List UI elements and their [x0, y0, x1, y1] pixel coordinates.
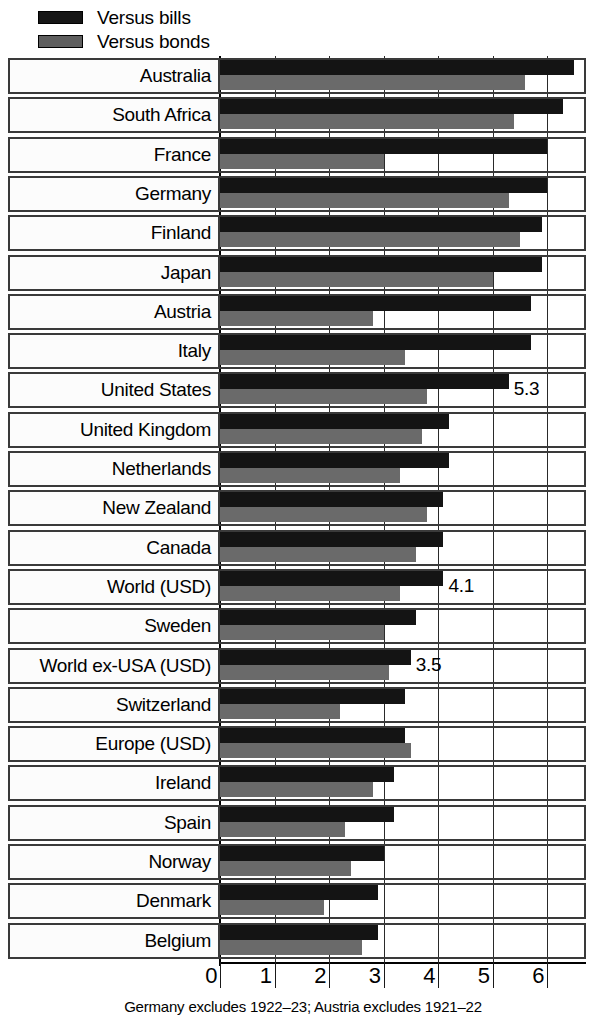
bar-versus-bills: [220, 767, 394, 782]
bar-value-label: 5.3: [514, 379, 540, 398]
axis-tick-0: [220, 962, 221, 988]
bar-versus-bonds: [220, 782, 373, 797]
legend-label-bills: Versus bills: [97, 8, 191, 27]
row-label: Sweden: [144, 616, 211, 636]
legend-item-bonds: Versus bonds: [38, 30, 210, 52]
row-label: Japan: [161, 263, 211, 283]
x-axis: 0123456: [0, 962, 606, 996]
bar-versus-bonds: [220, 704, 340, 719]
row-label: Germany: [135, 184, 211, 204]
bar-versus-bonds: [220, 586, 400, 601]
bar-versus-bills: [220, 139, 547, 154]
axis-tick-4: [438, 962, 439, 988]
row-label: Italy: [178, 341, 211, 361]
row-label: Ireland: [155, 773, 211, 793]
chart-legend: Versus bills Versus bonds: [38, 4, 338, 52]
bar-versus-bills: [220, 885, 378, 900]
row-label-box: United States: [8, 372, 220, 408]
row-label-box: Belgium: [8, 923, 220, 959]
axis-tick-5: [493, 962, 494, 988]
row-label-box: Denmark: [8, 883, 220, 919]
legend-item-bills: Versus bills: [38, 6, 191, 28]
row-label-box: France: [8, 137, 220, 173]
bar-versus-bills: [220, 217, 542, 232]
bar-versus-bills: [220, 335, 531, 350]
row-label: Denmark: [136, 891, 211, 911]
row-label: Belgium: [144, 931, 211, 951]
bar-versus-bonds: [220, 272, 493, 287]
chart-footnote: Germany excludes 1922–23; Austria exclud…: [0, 998, 606, 1016]
bar-versus-bonds: [220, 232, 520, 247]
axis-tick-label-6: 6: [532, 964, 544, 988]
bar-versus-bills: [220, 532, 443, 547]
bar-versus-bills: [220, 610, 416, 625]
bar-versus-bonds: [220, 900, 324, 915]
bar-versus-bonds: [220, 114, 514, 129]
bar-versus-bills: [220, 60, 574, 75]
row-label: South Africa: [112, 105, 211, 125]
bar-versus-bonds: [220, 193, 509, 208]
row-label-box: Italy: [8, 333, 220, 369]
axis-tick-6: [547, 962, 548, 988]
row-label-box: Switzerland: [8, 687, 220, 723]
bar-versus-bonds: [220, 822, 345, 837]
chart-root: Versus bills Versus bonds AustraliaSouth…: [0, 0, 606, 1020]
bar-versus-bonds: [220, 429, 422, 444]
axis-tick-3: [384, 962, 385, 988]
row-label: World ex-USA (USD): [39, 656, 211, 676]
row-label: Netherlands: [112, 459, 211, 479]
row-label-box: New Zealand: [8, 490, 220, 526]
bar-versus-bills: [220, 453, 449, 468]
row-label: Switzerland: [116, 695, 211, 715]
row-label: Australia: [140, 66, 211, 86]
row-label: Spain: [164, 813, 211, 833]
bar-versus-bonds: [220, 311, 373, 326]
row-label: France: [154, 145, 211, 165]
row-label-box: Germany: [8, 176, 220, 212]
row-label: New Zealand: [102, 498, 211, 518]
row-label: Norway: [148, 852, 211, 872]
legend-swatch-black-icon: [38, 11, 83, 24]
bar-versus-bills: [220, 492, 443, 507]
row-label-box: Sweden: [8, 608, 220, 644]
row-label-box: Netherlands: [8, 451, 220, 487]
bar-versus-bills: [220, 689, 405, 704]
row-label-box: Europe (USD): [8, 726, 220, 762]
row-label-box: Austria: [8, 294, 220, 330]
row-label-box: World ex-USA (USD): [8, 648, 220, 684]
row-label: Finland: [151, 223, 211, 243]
legend-swatch-gray-icon: [38, 35, 83, 48]
bar-versus-bonds: [220, 625, 384, 640]
row-label-box: United Kingdom: [8, 412, 220, 448]
axis-tick-label-5: 5: [478, 964, 490, 988]
bar-versus-bills: [220, 925, 378, 940]
row-label-box: South Africa: [8, 97, 220, 133]
bar-versus-bonds: [220, 861, 351, 876]
bar-versus-bonds: [220, 507, 427, 522]
bar-value-label: 4.1: [448, 576, 474, 595]
bar-versus-bills: [220, 846, 384, 861]
bar-versus-bonds: [220, 350, 405, 365]
bar-versus-bonds: [220, 389, 427, 404]
legend-label-bonds: Versus bonds: [97, 32, 210, 51]
bar-versus-bills: [220, 99, 563, 114]
axis-tick-label-4: 4: [423, 964, 435, 988]
bar-versus-bonds: [220, 154, 384, 169]
row-label: Canada: [146, 538, 211, 558]
gridline-6: [547, 56, 548, 966]
bar-versus-bills: [220, 374, 509, 389]
row-label-box: Spain: [8, 805, 220, 841]
bar-versus-bills: [220, 807, 394, 822]
axis-tick-label-3: 3: [369, 964, 381, 988]
bar-versus-bills: [220, 728, 405, 743]
bar-versus-bills: [220, 178, 547, 193]
bar-versus-bonds: [220, 743, 411, 758]
bar-versus-bonds: [220, 665, 389, 680]
row-label-box: Canada: [8, 530, 220, 566]
axis-tick-label-1: 1: [260, 964, 272, 988]
bar-versus-bills: [220, 414, 449, 429]
axis-tick-label-2: 2: [314, 964, 326, 988]
axis-tick-label-0: 0: [205, 964, 217, 988]
plot-area: AustraliaSouth AfricaFranceGermanyFinlan…: [0, 56, 606, 966]
bar-versus-bills: [220, 296, 531, 311]
